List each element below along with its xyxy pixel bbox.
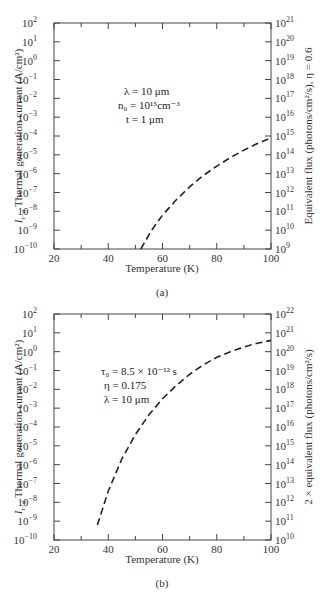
y-right-tick-label: 1017 [275, 90, 294, 104]
y-right-tick-label: 1011 [275, 513, 294, 527]
panel-b-right-axis-title: 2 × equivalent flux (photons/cm²/s) [302, 349, 315, 505]
y-right-tick-label: 1016 [275, 109, 294, 123]
y-right-tick-label: 1022 [275, 306, 294, 320]
panel-a-plot: 2040608010010210110010−110−210−310−410−5… [13, 15, 294, 264]
y-tick-label: 10−10 [13, 532, 37, 546]
y-right-tick-label: 1015 [275, 438, 294, 452]
y-right-tick-label: 1019 [275, 363, 294, 377]
y-right-tick-label: 1021 [275, 325, 294, 339]
panel-a-x-axis-title: Temperature (K) [125, 262, 199, 275]
y-subscript: t−g [19, 209, 27, 220]
y-label-text: Thermal generation current (A/cm²) [12, 48, 25, 206]
x-tick-label: 80 [211, 543, 223, 555]
y-tick-label: 100 [22, 53, 37, 67]
panel-b: 2040608010010210110010−110−210−310−410−5… [12, 306, 315, 590]
y-right-tick-label: 1018 [275, 72, 294, 86]
panel-a: 2040608010010210110010−110−210−310−410−5… [12, 15, 315, 299]
x-tick-label: 40 [103, 252, 115, 264]
y-right-tick-label: 109 [275, 241, 290, 255]
y-right-tick-label: 1017 [275, 400, 294, 414]
panel-a-annotation: λ = 10 μm n₀ = 10¹⁵cm⁻³ t = 1 μm [118, 85, 180, 125]
annotation-line-2: η = 0.175 [104, 379, 147, 391]
y-tick-label: 101 [22, 34, 37, 48]
y-right-tick-label: 1018 [275, 381, 294, 395]
panel-b-plot: 2040608010010210110010−110−210−310−410−5… [13, 306, 294, 555]
y-right-tick-label: 1020 [275, 34, 294, 48]
y-tick-label: 100 [22, 344, 37, 358]
y-right-tick-label: 1010 [275, 222, 294, 236]
y-right-tick-label: 1013 [275, 476, 294, 490]
y-right-tick-label: 1019 [275, 53, 294, 67]
annotation-line-1: λ = 10 μm [124, 85, 170, 97]
y-tick-label: 102 [22, 306, 37, 320]
right-label-text: Equivalent flux (photons/cm²/s), η = 0.6 [302, 47, 315, 224]
annotation-line-3: λ = 10 μm [104, 393, 150, 405]
panel-b-x-axis-title: Temperature (K) [125, 553, 199, 566]
y-right-tick-label: 1012 [275, 494, 294, 508]
figure: 2040608010010210110010−110−210−310−410−5… [0, 0, 327, 602]
y-right-tick-label: 1011 [275, 203, 294, 217]
y-right-tick-label: 1020 [275, 344, 294, 358]
panel-a-caption: (a) [156, 286, 169, 299]
y-right-tick-label: 1021 [275, 15, 294, 29]
y-right-tick-label: 1014 [275, 147, 294, 161]
plot-frame [54, 23, 271, 249]
annotation-line-3: t = 1 μm [126, 113, 164, 125]
x-tick-label: 20 [49, 252, 61, 264]
y-right-tick-label: 1015 [275, 128, 294, 142]
y-right-tick-label: 1013 [275, 166, 294, 180]
panel-b-caption: (b) [156, 577, 169, 590]
y-subscript: t−g [19, 500, 27, 511]
panel-b-annotation: τ₀ = 8.5 × 10⁻¹² s η = 0.175 λ = 10 μm [101, 365, 177, 405]
y-right-tick-label: 1014 [275, 457, 294, 471]
x-tick-label: 20 [49, 543, 61, 555]
y-right-tick-label: 1012 [275, 185, 294, 199]
data-curve [141, 138, 271, 249]
x-tick-label: 40 [103, 543, 115, 555]
annotation-line-2: n₀ = 10¹⁵cm⁻³ [118, 99, 180, 111]
y-tick-label: 10−9 [17, 222, 37, 236]
y-label-text: Thermal generation current (A/cm²) [12, 339, 25, 497]
right-label-text: 2 × equivalent flux (photons/cm²/s) [302, 349, 315, 505]
y-tick-label: 10−9 [17, 513, 37, 527]
y-tick-label: 102 [22, 15, 37, 29]
annotation-line-1: τ₀ = 8.5 × 10⁻¹² s [101, 365, 177, 377]
panel-a-right-axis-title: Equivalent flux (photons/cm²/s), η = 0.6 [302, 47, 315, 224]
y-tick-label: 10−10 [13, 241, 37, 255]
plot-frame [54, 314, 271, 540]
y-tick-label: 101 [22, 325, 37, 339]
x-tick-label: 80 [211, 252, 223, 264]
y-right-tick-label: 1016 [275, 419, 294, 433]
y-right-tick-label: 1010 [275, 532, 294, 546]
